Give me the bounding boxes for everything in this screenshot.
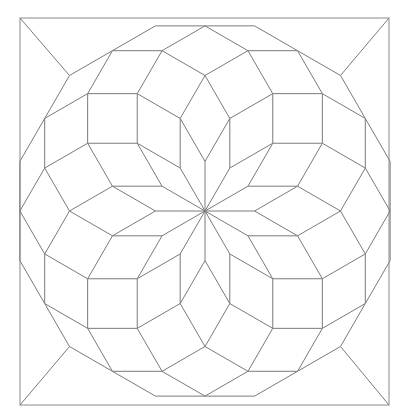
tile-edge [180, 211, 205, 254]
tile-edge [322, 254, 365, 279]
tile-edge [180, 118, 205, 161]
tile-edge [137, 236, 162, 279]
tile-edge [162, 186, 205, 211]
tile-edge [248, 328, 273, 371]
rosette-tiling-diagram [0, 0, 407, 418]
tile-edge [162, 26, 205, 51]
tile-edge [205, 304, 230, 347]
tile-edge [298, 186, 341, 211]
tile-edge [20, 118, 45, 161]
tile-edge [137, 143, 180, 168]
tile-edge [180, 168, 205, 211]
tile-edge [205, 118, 230, 161]
tile-edge [162, 51, 205, 76]
tile-edge [341, 211, 366, 254]
tile-edge [205, 211, 248, 236]
tile-edge [69, 347, 112, 372]
tile-edge [205, 261, 230, 304]
tile-edge [255, 211, 298, 236]
tile-edge [45, 168, 70, 211]
tile-edge [88, 51, 113, 94]
tile-edge [45, 304, 70, 347]
tile-edge [365, 168, 390, 211]
tile-edge [88, 236, 113, 279]
tile-edge [137, 94, 180, 119]
tile-edge [322, 94, 365, 119]
tile-edge [205, 186, 248, 211]
tile-edge [205, 168, 230, 211]
tile-edge [255, 186, 298, 211]
tile-edge [45, 304, 88, 329]
tile-edge [137, 51, 162, 94]
tile-edge [248, 143, 273, 186]
tile-edge [162, 371, 205, 396]
tile-edge [255, 371, 298, 396]
tile-edge [69, 186, 112, 211]
tile-edge [248, 236, 273, 279]
tile-edge [298, 347, 341, 372]
tile-edge [162, 211, 205, 236]
tile-edge [137, 328, 162, 371]
tile-edge [365, 211, 390, 254]
tile-edge [298, 236, 323, 279]
tile-edge [230, 143, 273, 168]
tile-edge [341, 18, 389, 75]
tile-edge [298, 328, 323, 371]
tile-edge [298, 51, 323, 94]
tile-edge [112, 371, 155, 396]
tile-edge [341, 168, 366, 211]
tile-edge [112, 186, 155, 211]
tile-edge [137, 143, 162, 186]
tile-edge [20, 347, 69, 405]
tile-edge [20, 18, 69, 75]
tile-edge [205, 75, 230, 118]
tile-edge [298, 143, 323, 186]
tile-edge [162, 347, 205, 372]
tile-edge [45, 94, 88, 119]
tile-edge [205, 347, 248, 372]
tile-edge [248, 51, 273, 94]
tile-edge [365, 118, 390, 161]
tile-edge [322, 143, 365, 168]
tile-edge [45, 143, 88, 168]
tile-edge [20, 261, 45, 304]
tile-edge [45, 254, 88, 279]
tile-edge [88, 328, 113, 371]
tile-edge [230, 254, 273, 279]
tile-edge [112, 211, 155, 236]
tile-edge [180, 304, 205, 347]
tile-edge [180, 261, 205, 304]
tile-edge [112, 26, 155, 51]
tile-edge [205, 211, 230, 254]
tile-edge [88, 143, 113, 186]
tile-edge [69, 211, 112, 236]
tile-edge [341, 304, 366, 347]
tile-edge [20, 211, 45, 254]
tile-edge [45, 75, 70, 118]
tile-edge [205, 51, 248, 76]
tile-edge [322, 304, 365, 329]
tile-edge [205, 26, 248, 51]
tile-edge [255, 26, 298, 51]
tile-edge [341, 347, 389, 405]
tile-edge [20, 168, 45, 211]
tile-edge [45, 211, 70, 254]
rhombus-tiles [20, 26, 390, 396]
tile-edge [205, 371, 248, 396]
tile-edge [341, 75, 366, 118]
tile-edge [137, 304, 180, 329]
tile-edge [180, 75, 205, 118]
tile-edge [230, 304, 273, 329]
tile-edge [365, 261, 390, 304]
tile-edge [137, 254, 180, 279]
tile-edge [69, 51, 112, 76]
tile-edge [298, 211, 341, 236]
tile-edge [230, 94, 273, 119]
tile-edge [298, 51, 341, 76]
